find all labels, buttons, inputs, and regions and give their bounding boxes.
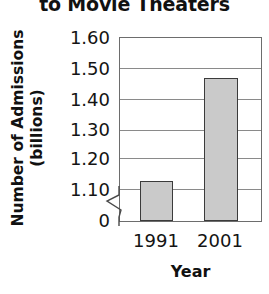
x-axis-title: Year	[119, 262, 262, 282]
y-tick-label: 1.60	[48, 29, 110, 47]
gridline-1-20	[120, 158, 261, 159]
bar-2001	[204, 78, 238, 221]
gridline-1-40	[120, 99, 261, 100]
y-tick-label: 1.20	[48, 150, 110, 168]
gridline-1-50	[120, 68, 261, 69]
x-tick-label-1991: 1991	[121, 231, 191, 251]
chart-title: to Movie Theaters	[0, 0, 269, 15]
y-tick-label: 1.10	[48, 181, 110, 199]
y-axis-title-line-1: Number of Admissions	[9, 30, 27, 227]
y-tick-label: 0	[48, 212, 110, 230]
x-axis-tick-labels: 1991 2001	[119, 231, 262, 255]
axis-break-icon	[104, 186, 124, 226]
y-axis-tick-labels: 1.60 1.50 1.40 1.30 1.20 1.10 0	[48, 0, 110, 294]
plot-area	[119, 37, 262, 222]
bar-1991	[140, 181, 173, 221]
x-tick-label-2001: 2001	[185, 231, 255, 251]
chart-title-clip: to Movie Theaters	[0, 0, 269, 17]
y-tick-label: 1.50	[48, 60, 110, 78]
y-tick-label: 1.30	[48, 121, 110, 139]
bar-chart: to Movie Theaters Number of Admissions (…	[0, 0, 269, 294]
y-tick-label: 1.40	[48, 91, 110, 109]
gridline-1-30	[120, 130, 261, 131]
y-axis-title-line-2: (billions)	[28, 30, 47, 227]
y-axis-title-text: Number of Admissions (billions)	[9, 30, 47, 227]
